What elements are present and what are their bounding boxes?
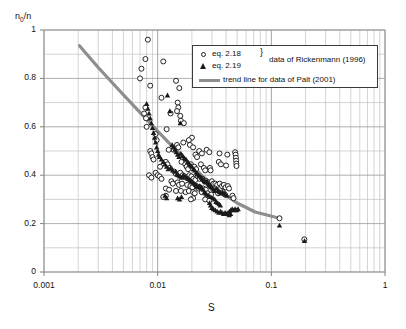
data-point-eq-2-18 xyxy=(188,197,193,202)
x-axis-title: S xyxy=(208,302,215,313)
data-point-eq-2-18 xyxy=(175,100,180,105)
x-tick-label: 1 xyxy=(365,280,405,290)
legend-brace: } xyxy=(260,47,263,57)
data-point-eq-2-19 xyxy=(179,194,184,199)
data-point-eq-2-18 xyxy=(186,138,191,143)
data-point-eq-2-18 xyxy=(234,164,239,169)
data-point-eq-2-18 xyxy=(148,83,153,88)
data-point-eq-2-18 xyxy=(181,140,186,145)
data-point-eq-2-18 xyxy=(207,150,212,155)
y-axis-title: n0/n xyxy=(15,11,31,23)
x-tick-label: 0.001 xyxy=(24,280,64,290)
x-tick-label: 0.01 xyxy=(138,280,178,290)
data-point-eq-2-18 xyxy=(218,162,223,167)
legend-trend-line-icon xyxy=(199,79,220,82)
data-point-eq-2-19 xyxy=(165,93,170,98)
data-point-eq-2-19 xyxy=(154,145,159,150)
data-point-eq-2-18 xyxy=(145,37,150,42)
data-point-eq-2-18 xyxy=(178,113,183,118)
data-point-eq-2-18 xyxy=(161,59,166,64)
data-point-eq-2-18 xyxy=(167,187,172,192)
legend-open-circle-icon xyxy=(201,52,206,57)
legend-label-eq-2-18: eq. 2.18 xyxy=(212,49,241,58)
data-point-eq-2-18 xyxy=(158,164,163,169)
data-point-eq-2-18 xyxy=(195,155,200,160)
y-tick-label: 0.4 xyxy=(6,169,36,179)
legend-group-label-rickenmann: data of Rickenmann (1996) xyxy=(269,55,366,64)
data-point-eq-2-18 xyxy=(277,216,282,221)
data-point-eq-2-19 xyxy=(146,111,151,116)
y-tick-label: 0 xyxy=(6,266,36,276)
data-point-eq-2-18 xyxy=(192,191,197,196)
y-axis-title-tail: /n xyxy=(24,11,32,21)
chart-legend: eq. 2.18 eq. 2.19 } data of Rickenmann (… xyxy=(192,45,378,88)
data-point-eq-2-18 xyxy=(174,188,179,193)
data-point-eq-2-18 xyxy=(175,109,180,114)
y-tick-label: 0.6 xyxy=(6,121,36,131)
data-point-eq-2-18 xyxy=(224,163,229,168)
x-tick-label: 0.1 xyxy=(251,280,291,290)
data-point-eq-2-18 xyxy=(217,151,222,156)
data-point-eq-2-18 xyxy=(149,175,154,180)
data-point-eq-2-18 xyxy=(208,168,213,173)
data-point-eq-2-18 xyxy=(159,95,164,100)
data-point-eq-2-18 xyxy=(159,176,164,181)
data-point-eq-2-18 xyxy=(166,147,171,152)
data-point-eq-2-18 xyxy=(143,57,148,62)
y-tick-label: 0.8 xyxy=(6,72,36,82)
data-point-eq-2-18 xyxy=(142,111,147,116)
data-point-eq-2-18 xyxy=(164,127,169,132)
data-point-eq-2-18 xyxy=(174,78,179,83)
data-point-eq-2-18 xyxy=(191,145,196,150)
data-point-eq-2-18 xyxy=(138,76,143,81)
data-point-eq-2-19 xyxy=(144,101,149,106)
data-point-eq-2-18 xyxy=(180,181,185,186)
data-point-eq-2-18 xyxy=(231,196,236,201)
data-point-eq-2-18 xyxy=(176,145,181,150)
data-point-eq-2-18 xyxy=(144,124,149,129)
data-point-eq-2-18 xyxy=(139,66,144,71)
legend-label-trend-line: trend line for data of Palt (2001) xyxy=(223,75,336,84)
y-tick-label: 0.2 xyxy=(6,218,36,228)
data-point-eq-2-18 xyxy=(170,181,175,186)
legend-label-eq-2-19: eq. 2.19 xyxy=(212,61,241,70)
data-point-eq-2-18 xyxy=(227,186,232,191)
data-point-eq-2-18 xyxy=(151,157,156,162)
data-point-eq-2-18 xyxy=(225,152,230,157)
y-tick-label: 1 xyxy=(6,24,36,34)
chart-figure: n0/n S eq. 2.18 eq. 2.19 } data of Ricke… xyxy=(0,0,406,329)
data-point-eq-2-18 xyxy=(177,86,182,91)
legend-filled-triangle-icon xyxy=(200,63,206,69)
data-point-eq-2-18 xyxy=(199,151,204,156)
